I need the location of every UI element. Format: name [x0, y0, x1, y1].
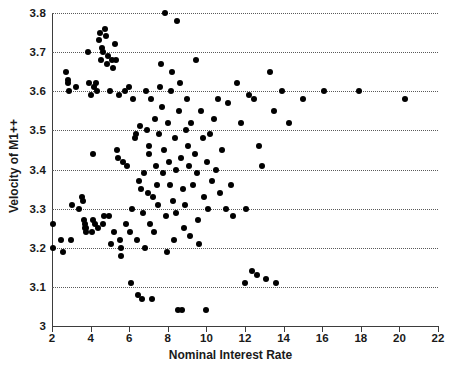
data-point [116, 92, 122, 98]
data-point [133, 131, 139, 137]
data-point [177, 80, 183, 86]
data-point [161, 147, 167, 153]
data-point [194, 170, 200, 176]
data-point [180, 186, 186, 192]
data-point [201, 194, 207, 200]
data-point [321, 88, 327, 94]
data-point [89, 229, 95, 235]
data-point [300, 96, 306, 102]
data-point [69, 202, 75, 208]
data-point [68, 237, 74, 243]
data-point [144, 127, 150, 133]
data-point [171, 237, 177, 243]
y-tick-label: 3.2 [29, 242, 46, 254]
data-point [195, 217, 201, 223]
data-point [60, 249, 66, 255]
data-point [118, 245, 124, 251]
gridline-y [52, 287, 438, 288]
data-point [219, 147, 225, 153]
x-tick-label: 12 [239, 332, 252, 344]
data-point [155, 202, 161, 208]
data-point [279, 88, 285, 94]
data-point [356, 88, 362, 94]
data-point [118, 253, 124, 259]
data-point [181, 225, 187, 231]
data-point [192, 151, 198, 157]
data-point [172, 135, 178, 141]
data-point [169, 69, 175, 75]
data-point [107, 88, 113, 94]
data-point [159, 104, 165, 110]
data-point [176, 108, 182, 114]
data-point [271, 108, 277, 114]
data-point [182, 202, 188, 208]
data-point [66, 88, 72, 94]
data-point [150, 194, 156, 200]
data-point [102, 26, 108, 32]
data-point [100, 221, 106, 227]
data-point [166, 159, 172, 165]
data-point [80, 198, 86, 204]
data-point [217, 190, 223, 196]
data-point [196, 241, 202, 247]
data-point [209, 178, 215, 184]
data-point [93, 80, 99, 86]
data-point [211, 116, 217, 122]
data-point [242, 280, 248, 286]
data-point [103, 33, 109, 39]
data-point [153, 163, 159, 169]
data-point [234, 80, 240, 86]
data-point [167, 182, 173, 188]
data-point [267, 69, 273, 75]
x-axis-title: Nominal Interest Rate [0, 348, 461, 362]
data-point [223, 206, 229, 212]
data-point [65, 80, 71, 86]
data-point [256, 143, 262, 149]
y-axis-title: Velocity of M1++ [7, 106, 21, 226]
data-point [187, 233, 193, 239]
data-point [204, 159, 210, 165]
data-point [147, 221, 153, 227]
data-point [183, 127, 189, 133]
data-point [134, 237, 140, 243]
data-point [106, 213, 112, 219]
x-tick-label: 6 [126, 332, 132, 344]
data-point [152, 116, 158, 122]
data-point [112, 41, 118, 47]
data-point [142, 245, 148, 251]
data-point [63, 69, 69, 75]
x-tick-label: 8 [165, 332, 171, 344]
y-tick-label: 3.1 [29, 281, 46, 293]
data-point [190, 182, 196, 188]
data-point [50, 245, 56, 251]
data-point [130, 96, 136, 102]
data-point [170, 198, 176, 204]
data-point [50, 221, 56, 227]
data-point [124, 163, 130, 169]
data-point [160, 170, 166, 176]
data-point [113, 57, 119, 63]
gridline-y [52, 170, 438, 171]
x-tick-label: 16 [316, 332, 329, 344]
data-point [126, 84, 132, 90]
data-point [110, 65, 116, 71]
data-point [85, 49, 91, 55]
y-tick-label: 3 [39, 320, 46, 332]
data-point [94, 88, 100, 94]
data-point [151, 229, 157, 235]
x-tick-label: 14 [277, 332, 290, 344]
y-tick-label: 3.6 [29, 85, 46, 97]
data-point [149, 296, 155, 302]
data-point [90, 151, 96, 157]
data-point [178, 155, 184, 161]
x-tick-label: 18 [354, 332, 367, 344]
data-point [174, 18, 180, 24]
data-point [207, 131, 213, 137]
data-point [157, 84, 163, 90]
data-point [154, 182, 160, 188]
data-point [243, 206, 249, 212]
scatter-chart: 33.13.23.33.43.53.63.73.8 Velocity of M1… [0, 0, 461, 365]
data-point [96, 37, 102, 43]
data-point [286, 120, 292, 126]
data-point [162, 10, 168, 16]
